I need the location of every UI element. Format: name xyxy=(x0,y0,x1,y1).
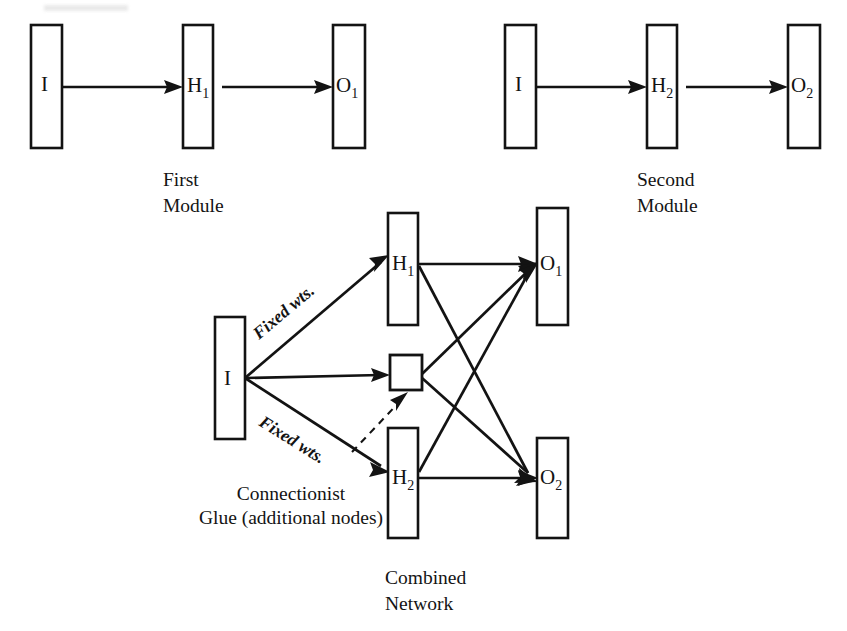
second-module-caption-line2: Module xyxy=(637,195,698,216)
diagram-canvas: I H1 O1 First Module I xyxy=(0,0,847,631)
combined-edge-glue-output2 xyxy=(422,378,528,473)
second-module-caption-line1: Second xyxy=(637,169,695,190)
scan-artifact xyxy=(44,5,128,11)
combined-edge-glue-output1 xyxy=(422,270,529,374)
edge-tag-fixed-wts-lower: Fixed wts. xyxy=(255,411,329,468)
combined-network-group: I H1 H2 O1 O2 Fixed wts. Fixed wts. xyxy=(199,208,568,614)
glue-annotation-line2: Glue (additional nodes) xyxy=(199,507,383,529)
glue-annotation-line1: Connectionist xyxy=(237,483,346,504)
second-module-group: I H2 O2 Second Module xyxy=(505,25,820,216)
first-module-caption-line2: Module xyxy=(163,195,224,216)
second-module-input-label: I xyxy=(515,72,522,96)
combined-network-caption-line1: Combined xyxy=(385,567,466,588)
first-module-group: I H1 O1 First Module xyxy=(31,25,365,216)
first-module-caption-line1: First xyxy=(163,169,199,190)
combined-glue-node-box[interactable] xyxy=(390,355,422,390)
combined-edge-input-glue xyxy=(245,375,380,378)
arrowhead-icon xyxy=(390,392,408,411)
network-diagram-svg: I H1 O1 First Module I xyxy=(0,0,847,631)
first-module-input-label: I xyxy=(41,72,48,96)
edge-tag-fixed-wts-upper: Fixed wts. xyxy=(248,280,318,343)
combined-network-caption-line2: Network xyxy=(385,593,453,614)
combined-input-label: I xyxy=(224,366,231,390)
